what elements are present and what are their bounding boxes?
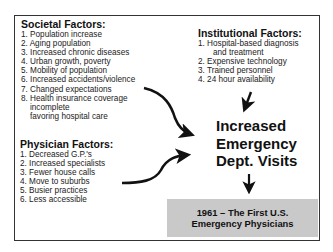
arrows-layer [0,0,333,252]
arrow-physician-to-visits-icon [122,155,186,183]
arrow-institutional-to-visits-icon [245,92,251,108]
arrow-societal-to-visits-icon [144,88,190,134]
